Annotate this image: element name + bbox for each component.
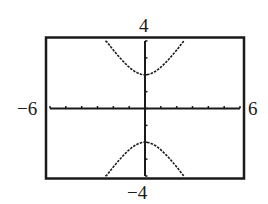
axes [50,41,240,176]
x-max-label: 6 [248,99,258,118]
x-min-label: −6 [17,99,37,118]
y-max-label: 4 [139,16,149,35]
y-min-label: −4 [127,183,147,202]
graph-window [0,0,268,204]
